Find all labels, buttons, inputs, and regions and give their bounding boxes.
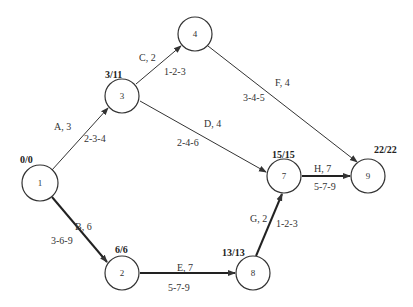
edge-h-activity: H, 7 [314,164,331,174]
node-9-times: 22/22 [374,145,397,155]
node-7-label: 7 [282,172,287,181]
edge-a-activity: A, 3 [54,122,71,132]
node-4-label: 4 [193,30,198,39]
node-3-label: 3 [120,92,125,101]
edge-f [208,46,357,162]
node-8-times: 13/13 [222,248,245,258]
edge-e-activity: E, 7 [177,263,193,273]
network-diagram [0,0,413,307]
node-9-label: 9 [366,172,371,181]
edge-c-activity: C, 2 [139,53,156,63]
edge-a-estimates: 2-3-4 [84,134,106,144]
edge-h-estimates: 5-7-9 [314,182,336,192]
edge-c-estimates: 1-2-3 [164,67,186,77]
node-2-times: 6/6 [115,245,128,255]
edge-g-estimates: 1-2-3 [276,219,298,229]
edge-d-activity: D, 4 [204,119,221,129]
edge-d-estimates: 2-4-6 [177,138,199,148]
edge-f-estimates: 3-4-5 [243,93,265,103]
edge-e-estimates: 5-7-9 [168,283,190,293]
edge-b-activity: B, 6 [75,222,92,232]
edge-d [140,101,266,172]
edge-g-activity: G, 2 [250,214,267,224]
node-1-label: 1 [38,179,43,188]
node-7-times: 15/15 [272,150,295,160]
edge-f-activity: F, 4 [275,78,290,88]
node-1-times: 0/0 [20,155,33,165]
edge-b-estimates: 3-6-9 [51,236,73,246]
node-3-times: 3/11 [105,70,122,80]
node-2-label: 2 [120,269,125,278]
node-8-label: 8 [251,269,256,278]
